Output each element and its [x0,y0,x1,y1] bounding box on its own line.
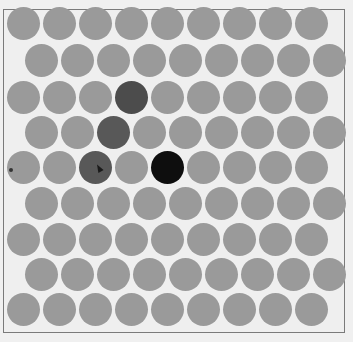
board-cell-r2-c3-dark[interactable] [115,81,148,114]
board-cell-r5-c0[interactable] [25,187,58,220]
board-cell-r0-c8[interactable] [295,7,328,40]
board-cell-r4-c1[interactable] [43,151,76,184]
board-cell-r7-c8[interactable] [313,258,346,291]
board-cell-r2-c4[interactable] [151,81,184,114]
board-cell-r2-c0[interactable] [7,81,40,114]
board-cell-r6-c8[interactable] [295,223,328,256]
board-cell-r5-c1[interactable] [61,187,94,220]
board-cell-r5-c2[interactable] [97,187,130,220]
board-cell-r0-c5[interactable] [187,7,220,40]
board-cell-r7-c3[interactable] [133,258,166,291]
board-cell-r0-c3[interactable] [115,7,148,40]
board-cell-r3-c7[interactable] [277,116,310,149]
board-cell-r6-c5[interactable] [187,223,220,256]
board-cell-r8-c1[interactable] [43,293,76,326]
board-cell-r0-c4[interactable] [151,7,184,40]
board-cell-r1-c5[interactable] [205,44,238,77]
board-cell-r1-c8[interactable] [313,44,346,77]
board-cell-r7-c7[interactable] [277,258,310,291]
board-cell-r2-c6[interactable] [223,81,256,114]
board-cell-r3-c8[interactable] [313,116,346,149]
board-cell-r2-c2[interactable] [79,81,112,114]
board-cell-r1-c2[interactable] [97,44,130,77]
board-cell-r8-c5[interactable] [187,293,220,326]
board-cell-r3-c4[interactable] [169,116,202,149]
board-cell-r8-c2[interactable] [79,293,112,326]
board-cell-r3-c6[interactable] [241,116,274,149]
board-cell-r8-c7[interactable] [259,293,292,326]
board-cell-r0-c0[interactable] [7,7,40,40]
board-cell-r8-c0[interactable] [7,293,40,326]
board-cell-r6-c2[interactable] [79,223,112,256]
board-cell-r3-c2-mid[interactable] [97,116,130,149]
board-cell-r6-c3[interactable] [115,223,148,256]
board-cell-r1-c1[interactable] [61,44,94,77]
board-cell-r2-c5[interactable] [187,81,220,114]
board-cell-r0-c6[interactable] [223,7,256,40]
board-cell-r2-c1[interactable] [43,81,76,114]
board-cell-r7-c1[interactable] [61,258,94,291]
board-cell-r5-c3[interactable] [133,187,166,220]
board-cell-r6-c7[interactable] [259,223,292,256]
board-cell-r8-c8[interactable] [295,293,328,326]
board-cell-r6-c0[interactable] [7,223,40,256]
board-cell-r1-c0[interactable] [25,44,58,77]
board-cell-r3-c0[interactable] [25,116,58,149]
board-cell-r4-c4-black[interactable] [151,151,184,184]
board-cell-r5-c8[interactable] [313,187,346,220]
board-cell-r3-c5[interactable] [205,116,238,149]
board-cell-r3-c3[interactable] [133,116,166,149]
board-cell-r7-c0[interactable] [25,258,58,291]
board-cell-r7-c5[interactable] [205,258,238,291]
board-cell-r2-c8[interactable] [295,81,328,114]
board-cell-r4-c5[interactable] [187,151,220,184]
board-cell-r3-c1[interactable] [61,116,94,149]
board-cell-r5-c6[interactable] [241,187,274,220]
board-cell-r7-c6[interactable] [241,258,274,291]
board-cell-r1-c6[interactable] [241,44,274,77]
board-cell-r6-c1[interactable] [43,223,76,256]
board-cell-r1-c7[interactable] [277,44,310,77]
board-cell-r6-c4[interactable] [151,223,184,256]
board-cell-r1-c3[interactable] [133,44,166,77]
board-cell-r4-c7[interactable] [259,151,292,184]
board-cell-r8-c4[interactable] [151,293,184,326]
board-cell-r1-c4[interactable] [169,44,202,77]
hex-game-board [3,9,345,333]
board-cell-r5-c7[interactable] [277,187,310,220]
board-cell-r4-c3[interactable] [115,151,148,184]
board-cell-r8-c6[interactable] [223,293,256,326]
board-cell-r2-c7[interactable] [259,81,292,114]
board-cell-r6-c6[interactable] [223,223,256,256]
board-cell-r4-c6[interactable] [223,151,256,184]
board-cell-r5-c4[interactable] [169,187,202,220]
board-cell-r0-c7[interactable] [259,7,292,40]
board-cell-r8-c3[interactable] [115,293,148,326]
board-cell-r5-c5[interactable] [205,187,238,220]
board-cell-r4-c8[interactable] [295,151,328,184]
board-cell-r7-c2[interactable] [97,258,130,291]
board-cell-r7-c4[interactable] [169,258,202,291]
board-cell-r0-c1[interactable] [43,7,76,40]
board-cell-r0-c2[interactable] [79,7,112,40]
board-cell-r4-c0[interactable] [7,151,40,184]
cell-marker-dot [9,168,13,172]
